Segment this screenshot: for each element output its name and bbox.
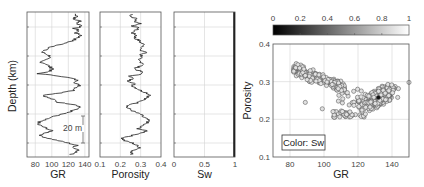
x-tick-label: 0.4 xyxy=(155,160,167,169)
x-tick-label: 120 xyxy=(351,160,365,169)
x-tick-label: 140 xyxy=(78,160,92,169)
porosity-track: 0.10.20.30.4Porosity xyxy=(94,12,167,180)
x-axis-label: GR xyxy=(50,168,66,180)
well-log-figure: Depth (km) 80100120140GR 0.10.20.30.4Por… xyxy=(0,0,424,187)
y-axis-label: Porosity xyxy=(241,81,253,120)
colorbar-tick-label: 0.4 xyxy=(322,14,334,23)
depth-axis-label: Depth (km) xyxy=(6,60,18,112)
y-tick-label: 0.1 xyxy=(259,153,271,162)
x-tick-label: 80 xyxy=(31,160,40,169)
legend-text: Color: Sw xyxy=(283,137,324,148)
colorbar-tick-label: 0 xyxy=(271,14,276,23)
colorbar-tick-label: 0.2 xyxy=(295,14,307,23)
y-tick-label: 0.4 xyxy=(259,40,271,49)
color-legend-box: Color: Sw xyxy=(282,135,325,150)
colorbar-tick-label: 0.8 xyxy=(376,14,388,23)
x-axis-label: Porosity xyxy=(112,168,151,180)
y-tick-label: 0.2 xyxy=(259,115,271,124)
sw-track: 00.51Sw xyxy=(172,12,238,180)
x-tick-label: 140 xyxy=(385,160,399,169)
y-tick-label: 0.3 xyxy=(259,78,271,87)
scale-bar-label: 20 m xyxy=(63,123,82,133)
scatter-plot: 801001201400.10.20.30.4Color: SwGRPorosi… xyxy=(241,40,411,180)
gr-track: 80100120140GR xyxy=(27,12,92,180)
x-tick-label: 100 xyxy=(317,160,331,169)
colorbar: 00.20.40.60.81 xyxy=(271,14,412,35)
colorbar-tick-label: 1 xyxy=(407,14,412,23)
x-axis-label: Sw xyxy=(197,168,212,180)
x-axis-label: GR xyxy=(333,168,349,180)
x-tick-label: 0.1 xyxy=(94,160,106,169)
x-tick-label: 80 xyxy=(286,160,295,169)
colorbar-tick-label: 0.6 xyxy=(349,14,361,23)
x-tick-label: 1 xyxy=(233,160,238,169)
x-tick-label: 0 xyxy=(172,160,177,169)
